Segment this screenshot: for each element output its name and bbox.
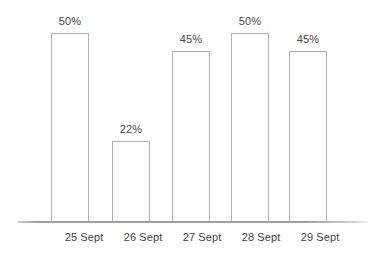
bar-group: 45% [289,33,327,222]
bar-rect [231,33,269,222]
bar-rect [172,51,210,222]
x-axis-line [18,221,368,223]
bar-group: 50% [231,15,269,222]
bar-rect [51,33,89,222]
bar-group: 22% [112,123,150,222]
bar-value-label: 50% [59,15,82,28]
bar-group: 50% [51,15,89,222]
bar-group: 45% [172,33,210,222]
bar-chart: 50% 22% 45% 50% 45% 25 Sept 26 Sept 27 S… [0,0,377,265]
bar-rect [289,51,327,222]
bar-value-label: 45% [297,33,320,46]
bar-value-label: 45% [180,33,203,46]
x-axis-category-labels: 25 Sept 26 Sept 27 Sept 28 Sept 29 Sept [0,231,377,251]
bar-value-label: 22% [120,123,143,136]
plot-area: 50% 22% 45% 50% 45% 25 Sept 26 Sept 27 S… [0,0,377,265]
x-axis-tick-label: 29 Sept [285,231,355,243]
bar-value-label: 50% [239,15,262,28]
bar-rect [112,141,150,222]
